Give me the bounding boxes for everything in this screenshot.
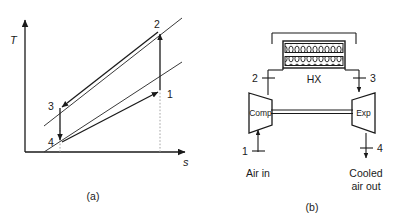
hx-coil-band-top bbox=[285, 44, 343, 53]
axis-label-temperature: T bbox=[10, 34, 18, 46]
figure-svg: T s 2 1 3 4 (a) bbox=[0, 0, 399, 220]
heat-exchanger-label: HX bbox=[307, 73, 322, 85]
axis-label-entropy: s bbox=[183, 156, 189, 168]
caption-panel-a: (a) bbox=[87, 190, 100, 202]
heat-exchanger-body bbox=[283, 41, 345, 68]
state-point-2-label: 2 bbox=[154, 18, 160, 30]
panel-b-schematic: HX 2 3 bbox=[242, 33, 383, 213]
state-point-4-label: 4 bbox=[48, 136, 54, 148]
isobar-low-pressure bbox=[44, 62, 182, 152]
figure-container: T s 2 1 3 4 (a) bbox=[0, 0, 399, 220]
cooled-air-out-line1: Cooled bbox=[349, 167, 382, 179]
air-in-label: Air in bbox=[246, 167, 270, 179]
inlet-stream-1 bbox=[252, 130, 265, 152]
outlet-stream-4 bbox=[360, 133, 373, 158]
compressor-label: Comp bbox=[249, 108, 272, 118]
station-3-label: 3 bbox=[370, 72, 376, 84]
expander-label: Exp bbox=[356, 108, 371, 118]
process-4-to-1-heat-absorption bbox=[62, 92, 158, 142]
station-4-label: 4 bbox=[377, 142, 383, 154]
station-2-label: 2 bbox=[252, 72, 258, 84]
expander: Exp bbox=[352, 93, 375, 133]
station-1-label: 1 bbox=[242, 145, 248, 157]
compressor: Comp bbox=[249, 93, 272, 133]
panel-a-ts-diagram: T s 2 1 3 4 (a) bbox=[10, 18, 189, 202]
state-point-1-label: 1 bbox=[167, 88, 173, 100]
drive-shaft bbox=[271, 110, 353, 114]
state-point-3-label: 3 bbox=[48, 100, 54, 112]
cooled-air-out-line2: air out bbox=[351, 180, 380, 192]
caption-panel-b: (b) bbox=[306, 201, 319, 213]
isobar-high-pressure bbox=[44, 18, 182, 126]
process-2-to-3-heat-rejection bbox=[62, 32, 158, 107]
hx-coil-band-bottom bbox=[285, 57, 343, 66]
